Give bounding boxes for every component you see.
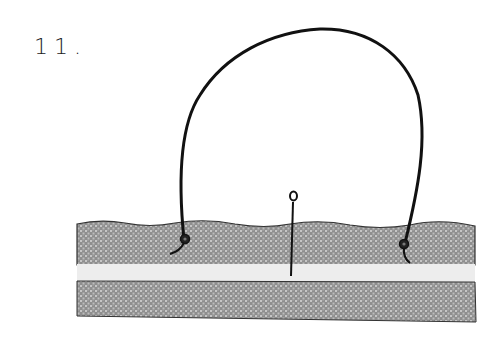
right-knot-center [402,242,405,245]
top-fabric-layer [77,221,475,265]
gap-strip [77,264,475,281]
wire-loop [181,29,422,243]
left-knot-center [183,237,186,240]
bottom-fabric-layer [77,281,476,322]
diagram-illustration [0,0,504,337]
center-pin-head [290,192,297,201]
